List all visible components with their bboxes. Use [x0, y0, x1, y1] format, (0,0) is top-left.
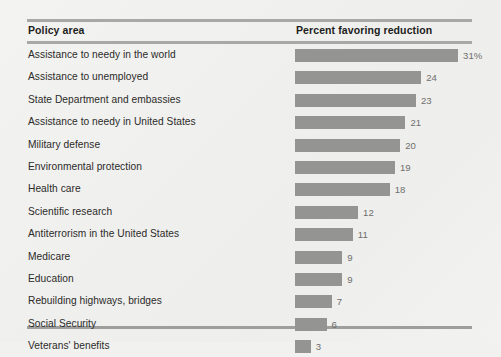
- bar-container: 24: [295, 71, 437, 84]
- bar: [295, 183, 390, 196]
- chart-row: Social Security6: [0, 316, 501, 338]
- chart-row: Medicare9: [0, 249, 501, 271]
- bar-value-label: 3: [316, 341, 321, 352]
- bar-value-label: 20: [405, 140, 416, 151]
- row-label: Health care: [28, 183, 81, 194]
- chart-row: Assistance to needy in the world31%: [0, 47, 501, 69]
- bar-value-label: 11: [358, 229, 368, 240]
- bar: [295, 139, 400, 152]
- bar-value-label: 6: [332, 319, 337, 330]
- bar-value-label: 21: [410, 117, 421, 128]
- chart-row: Veterans' benefits3: [0, 338, 501, 357]
- chart-row: Environmental protection19: [0, 159, 501, 181]
- bar-value-label: 12: [363, 207, 374, 218]
- bar: [295, 94, 416, 107]
- chart-row: Education9: [0, 271, 501, 293]
- bar-container: 3: [295, 340, 321, 353]
- row-label: Assistance to unemployed: [28, 71, 148, 82]
- bar-container: 31%: [295, 49, 483, 62]
- bar-container: 21: [295, 116, 421, 129]
- chart-row: Rebuilding highways, bridges7: [0, 293, 501, 315]
- bar-container: 9: [295, 251, 353, 264]
- bar-container: 7: [295, 295, 342, 308]
- header-top-rule: [27, 19, 472, 22]
- bar-value-label: 19: [400, 162, 411, 173]
- bar-container: 6: [295, 318, 337, 331]
- chart-row: Assistance to unemployed24: [0, 69, 501, 91]
- column-header-percent-favoring-reduction: Percent favoring reduction: [296, 24, 432, 36]
- bar-container: 12: [295, 206, 374, 219]
- bar-value-label: 24: [426, 72, 437, 83]
- bar-container: 20: [295, 139, 416, 152]
- bar-value-label: 9: [347, 252, 352, 263]
- row-label: Medicare: [28, 251, 70, 262]
- chart-row: Assistance to needy in United States21: [0, 114, 501, 136]
- bar-container: 19: [295, 161, 411, 174]
- bar-value-label: 31%: [463, 50, 483, 61]
- bar: [295, 71, 421, 84]
- bar: [295, 161, 395, 174]
- bar: [295, 49, 458, 62]
- bar-value-label: 7: [337, 296, 342, 307]
- row-label: Assistance to needy in United States: [28, 116, 196, 127]
- bar: [295, 273, 342, 286]
- row-label: Education: [28, 273, 74, 284]
- bar-container: 9: [295, 273, 353, 286]
- row-label: Assistance to needy in the world: [28, 49, 176, 60]
- bar: [295, 228, 353, 241]
- chart-row: Scientific research12: [0, 204, 501, 226]
- bar: [295, 116, 405, 129]
- bar-container: 23: [295, 94, 432, 107]
- chart-row: State Department and embassies23: [0, 92, 501, 114]
- header-bottom-rule: [27, 41, 472, 44]
- bar-value-label: 23: [421, 95, 432, 106]
- chart-row: Antiterrorism in the United States11: [0, 226, 501, 248]
- bar: [295, 318, 327, 331]
- bar: [295, 295, 332, 308]
- bar-container: 18: [295, 183, 406, 196]
- chart-rows: Assistance to needy in the world31%Assis…: [0, 47, 501, 357]
- chart-row: Health care18: [0, 181, 501, 203]
- row-label: State Department and embassies: [28, 94, 181, 105]
- row-label: Military defense: [28, 139, 100, 150]
- column-header-policy-area: Policy area: [28, 24, 85, 36]
- bar-value-label: 18: [395, 184, 406, 195]
- bar: [295, 340, 311, 353]
- bar-value-label: 9: [347, 274, 352, 285]
- row-label: Environmental protection: [28, 161, 142, 172]
- bar: [295, 251, 342, 264]
- chart-row: Military defense20: [0, 137, 501, 159]
- row-label: Veterans' benefits: [28, 340, 110, 351]
- row-label: Rebuilding highways, bridges: [28, 295, 162, 306]
- bar: [295, 206, 358, 219]
- row-label: Antiterrorism in the United States: [28, 228, 179, 239]
- row-label: Scientific research: [28, 206, 112, 217]
- bar-container: 11: [295, 228, 368, 241]
- row-label: Social Security: [28, 318, 96, 329]
